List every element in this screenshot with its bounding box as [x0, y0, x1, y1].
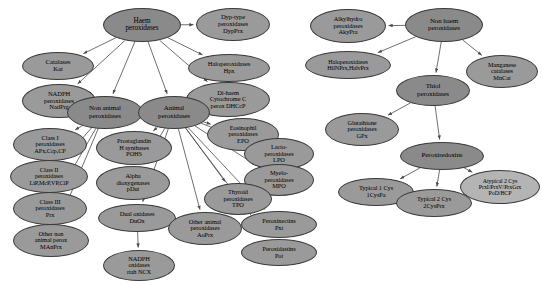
node-label-adiox: Alpha dioxygenases pDut: [97, 173, 169, 193]
edge-haem-to-catalases: [83, 38, 116, 54]
node-halo_hps[interactable]: Haloperoxidases Hpx: [188, 54, 270, 82]
node-label-nonanimal: Non animal peroxidases: [68, 105, 142, 119]
node-nonanimal[interactable]: Non animal peroxidases: [67, 96, 143, 129]
node-label-atyp2cys: Atypical 2 Cys PrxI/PrxV/PrxGrx PoD/BCP: [461, 178, 539, 196]
edge-thiol-to-prdx: [435, 106, 440, 140]
node-atyp2cys[interactable]: Atypical 2 Cys PrxI/PrxV/PrxGrx PoD/BCP: [460, 170, 540, 204]
edge-duox-to-nox: [138, 232, 139, 248]
edge-nonhaem-to-halo_prx: [378, 37, 416, 53]
node-label-class3: Class III peroxidases Prx: [14, 199, 86, 219]
node-label-thyroid: Thyroid peroxidases TPO: [205, 189, 271, 209]
node-label-prdx: Peroxiredoxins: [401, 152, 483, 159]
node-pohs[interactable]: Prostaglandin H synthases POHS: [96, 131, 172, 165]
node-dyp[interactable]: Dyp-type peroxidases DypPrx: [196, 8, 270, 41]
edge-animal-to-otheranimal: [178, 129, 200, 210]
edge-thiol-to-gpx: [388, 103, 411, 115]
edge-haem-to-nonanimal: [113, 42, 135, 94]
node-alkyl[interactable]: Alkylhydro peroxidases AkyPra: [310, 9, 386, 43]
node-label-class2: Class II peroxidases LiP,McP,VP,CiP: [11, 167, 87, 186]
node-mncat[interactable]: Manganese catalases MnCat: [466, 55, 538, 88]
edge-prdx-to-atyp2cys: [464, 168, 472, 172]
node-label-animal: Animal peroxidases: [139, 105, 209, 119]
node-haem[interactable]: Haem peroxidases: [103, 8, 181, 42]
node-duox[interactable]: Dual oxidases DuOx: [98, 204, 176, 232]
node-thyroid[interactable]: Thyroid peroxidases TPO: [204, 183, 272, 215]
node-label-thiol: Thiol peroxidases: [397, 83, 469, 97]
node-label-halo_hps: Haloperoxidases Hpx: [189, 61, 269, 74]
node-catalases[interactable]: Catalases Kat: [22, 52, 94, 80]
node-otheranimal[interactable]: Other animal peroxidases AoPrx: [168, 212, 242, 245]
node-class3[interactable]: Class III peroxidases Prx: [13, 192, 87, 225]
node-gpx[interactable]: Glutathione peroxidases GPx: [325, 113, 399, 146]
node-nox[interactable]: NADPH oxidases rtah NCX: [103, 250, 175, 281]
edge-nonhaem-to-mncat: [463, 40, 482, 55]
node-label-typ2cys: Typical 2 Cys 2CysPrx: [397, 196, 471, 209]
edge-nonhaem-to-thiol: [436, 42, 441, 73]
node-label-nox: NADPH oxidases rtah NCX: [104, 256, 174, 276]
node-label-haem: Haem peroxidases: [104, 18, 180, 33]
edge-haem-to-halo_hps: [168, 38, 203, 55]
node-label-alkyl: Alkylhydro peroxidases AkyPra: [311, 16, 385, 36]
diagram-canvas: Haem peroxidasesDyp-type peroxidases Dyp…: [0, 0, 542, 285]
node-pxt[interactable]: Peroxinectins Pxt: [241, 211, 317, 238]
node-halo_prx[interactable]: Haloperoxidases HilNPrx,HalvPrx: [305, 51, 391, 79]
edge-prdx-to-typ2cys: [437, 170, 440, 187]
edge-nonanimal-to-class1: [75, 126, 82, 130]
node-label-mncat: Manganese catalases MnCat: [467, 62, 537, 82]
node-adiox[interactable]: Alpha dioxygenases pDut: [96, 166, 170, 200]
node-thiol[interactable]: Thiol peroxidases: [396, 75, 470, 106]
node-prdx[interactable]: Peroxiredoxins: [400, 142, 484, 170]
node-pot[interactable]: Peroxidastins Pot: [241, 239, 317, 266]
node-label-otheranimal: Other animal peroxidases AoPrx: [169, 219, 241, 239]
node-label-class1: Class I peroxidases APx,Ccp,CP: [14, 135, 86, 155]
node-label-pohs: Prostaglandin H synthases POHS: [97, 138, 171, 158]
node-label-catalases: Catalases Kat: [23, 59, 93, 73]
node-animal[interactable]: Animal peroxidases: [138, 96, 210, 129]
node-label-lacto: Lacto- peroxidases LPO: [245, 144, 313, 164]
edge-prdx-to-typ1cys: [400, 168, 420, 179]
node-nonhaem[interactable]: Non haem peroxidases: [405, 8, 483, 42]
node-label-dyp: Dyp-type peroxidases DypPrx: [197, 14, 269, 34]
node-label-pxt: Peroxinectins Pxt: [242, 218, 316, 231]
node-othernon[interactable]: Other non animal perox MAnPrx: [13, 224, 89, 257]
node-label-nonhaem: Non haem peroxidases: [406, 18, 482, 32]
node-label-othernon: Other non animal perox MAnPrx: [14, 231, 88, 251]
node-class1[interactable]: Class I peroxidases APx,Ccp,CP: [13, 128, 87, 161]
node-label-pot: Peroxidastins Pot: [242, 246, 316, 259]
edge-haem-to-animal: [148, 42, 167, 94]
node-class2[interactable]: Class II peroxidases LiP,McP,VP,CiP: [10, 160, 88, 193]
node-label-gpx: Glutathione peroxidases GPx: [326, 120, 398, 140]
edge-animal-to-pohs: [153, 127, 157, 131]
node-label-duox: Dual oxidases DuOx: [99, 211, 175, 224]
node-label-halo_prx: Haloperoxidases HilNPrx,HalvPrx: [306, 59, 390, 72]
